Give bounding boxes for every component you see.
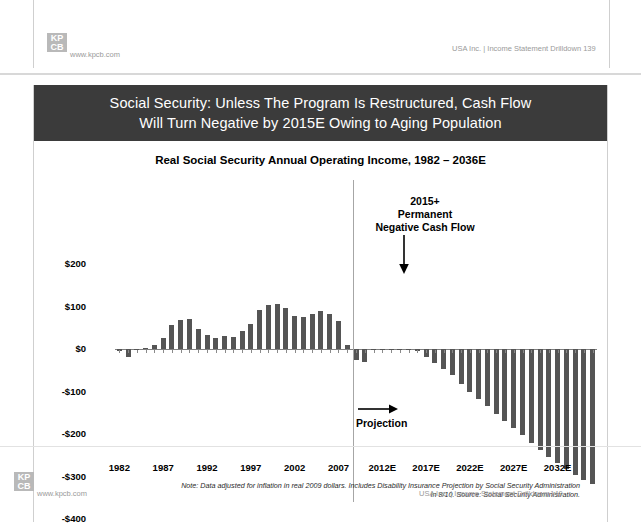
x-axis-tick [417,350,418,353]
bar-2024 [485,349,490,406]
x-axis-tick [198,350,199,353]
kpcb-logo-line2-bottom: CB [14,482,34,491]
kpcb-url-link[interactable]: www.kpcb.com [70,50,120,59]
x-axis-tick [452,350,453,353]
bar-2028 [520,349,525,435]
x-axis-tick [347,350,348,353]
bar-1999 [266,305,271,349]
x-axis-tick [207,350,208,353]
page-footer-current: USA Inc. | Income Statement Drilldown 14… [419,489,563,498]
bar-2001 [283,308,288,349]
x-axis-tick [233,350,234,353]
kpcb-logo-line2: CB [47,43,67,52]
y-tick-label: -$100 [42,386,86,397]
projection-label: Projection [356,417,407,429]
x-axis-tick [146,350,147,353]
x-axis-tick [216,350,217,353]
y-tick-label: $200 [42,258,86,269]
x-axis-tick [523,350,524,353]
x-axis-tick [260,350,261,353]
bar-1991 [196,329,201,349]
slide-title: Social Security: Unless The Program Is R… [110,93,532,133]
x-tick-label: 1982 [97,462,141,473]
bar-1990 [187,319,192,349]
x-axis-tick [242,350,243,353]
bar-2005 [318,311,323,349]
page-footer-previous: USA Inc. | Income Statement Drilldown 13… [452,44,596,53]
x-tick-label: 2032E [536,462,580,473]
x-axis-tick [409,350,410,353]
bar-1987 [161,338,166,349]
x-axis-tick [330,350,331,353]
x-axis-tick [312,350,313,353]
bar-1993 [213,338,218,349]
bar-1992 [205,335,210,349]
x-axis-tick [505,350,506,353]
bar-2034 [573,349,578,475]
x-axis-tick [251,350,252,353]
x-tick-label: 2002 [273,462,317,473]
kpcb-logo-icon-bottom: KP CB [14,472,34,491]
y-tick-label: -$200 [42,428,86,439]
x-tick-label: 2012E [360,462,404,473]
x-axis-tick [391,350,392,353]
x-axis-tick [435,350,436,353]
x-axis-tick [189,350,190,353]
x-axis-tick [540,350,541,353]
bar-2030 [538,349,543,450]
x-axis-tick [137,350,138,353]
bar-1994 [222,336,227,349]
bar-2031 [546,349,551,457]
slide-title-band: Social Security: Unless The Program Is R… [34,85,607,141]
x-tick-label: 2027E [492,462,536,473]
kpcb-url-link-bottom[interactable]: www.kpcb.com [37,489,87,498]
x-axis-tick [479,350,480,353]
x-tick-label: 1987 [141,462,185,473]
bar-1985 [143,348,148,349]
x-axis-tick [225,350,226,353]
x-axis-tick [400,350,401,353]
x-axis-tick [303,350,304,353]
x-axis-tick [268,350,269,353]
previous-slide-strip: KP CB www.kpcb.com USA Inc. | Income Sta… [0,0,641,75]
x-axis-tick [181,350,182,353]
page-bottom-divider [0,446,641,447]
slide-frame [33,85,608,522]
bar-1997 [248,324,253,350]
kpcb-logo-icon: KP CB [47,33,67,52]
bar-1989 [178,320,183,349]
x-axis-tick [575,350,576,353]
x-axis-tick [531,350,532,353]
projection-arrow-icon [357,403,399,415]
x-axis-tick [356,350,357,353]
bar-2022 [467,349,472,392]
x-axis-tick [558,350,559,353]
bar-1998 [257,310,262,349]
bar-2000 [275,304,280,349]
bar-2003 [301,317,306,349]
x-axis-tick [286,350,287,353]
x-axis-tick [338,350,339,353]
y-tick-label: -$400 [42,513,86,524]
x-axis-tick [470,350,471,353]
annotation-down-arrow-icon [397,235,411,275]
bar-2025 [494,349,499,414]
x-axis-tick [172,350,173,353]
x-axis-tick [593,350,594,353]
projection-divider-line [353,180,354,502]
bar-2006 [327,314,332,349]
bar-2008 [345,345,350,349]
x-axis-tick [277,350,278,353]
x-axis-tick [514,350,515,353]
bar-2033 [564,349,569,469]
bar-2004 [310,314,315,349]
x-axis-tick [374,350,375,353]
bar-2029 [529,349,534,443]
x-tick-label: 2017E [404,462,448,473]
y-tick-label: $100 [42,301,86,312]
x-axis-tick [496,350,497,353]
x-axis-tick [584,350,585,353]
bar-2027 [511,349,516,428]
x-axis-tick [119,350,120,353]
x-axis-tick [365,350,366,353]
